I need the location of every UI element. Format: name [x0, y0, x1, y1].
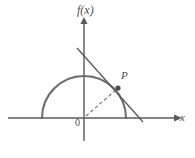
y-axis-arrowhead — [80, 17, 87, 24]
tangent-line — [77, 48, 143, 122]
y-axis — [80, 17, 87, 141]
point-p-marker — [115, 85, 120, 90]
x-axis-label: x — [180, 112, 185, 123]
origin-label: 0 — [75, 118, 80, 128]
x-axis — [8, 114, 182, 121]
figure-canvas — [0, 0, 195, 158]
radius-dashed-line — [86, 89, 117, 116]
math-figure: f(x) x P 0 — [0, 0, 195, 158]
y-axis-label: f(x) — [77, 4, 94, 16]
point-p-label: P — [121, 70, 128, 81]
